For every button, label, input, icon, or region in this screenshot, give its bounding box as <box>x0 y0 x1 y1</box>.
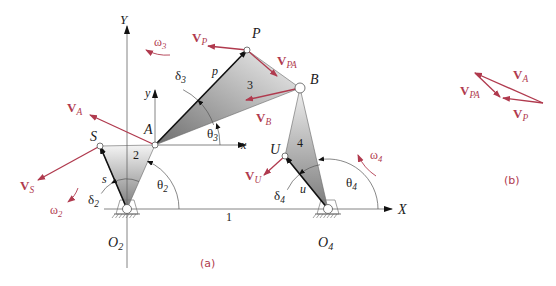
velocity-label-B: VB <box>256 110 271 127</box>
delta4-arc-ext <box>287 174 299 190</box>
link-2 <box>100 145 155 209</box>
velocity-label-A: VA <box>67 100 82 117</box>
delta3-arc-ext <box>183 90 198 101</box>
angle-label-θ3: θ3 <box>207 126 218 143</box>
link-label-2: 2 <box>133 148 139 162</box>
joint-O2 <box>123 205 132 214</box>
position-vector-label-u: u <box>300 182 306 196</box>
joint-O4 <box>324 205 333 214</box>
point-label-B: B <box>310 72 319 87</box>
velocity-polygon-b: VAVPAVP <box>460 67 543 123</box>
point-label-P: P <box>251 26 261 41</box>
velocity-label-P: VP <box>192 30 207 47</box>
omega-label-2: ω2 <box>50 203 63 219</box>
caption-b: (b) <box>504 174 520 187</box>
axis-label-X: X <box>397 202 407 217</box>
position-vector-label-p: p <box>211 64 218 78</box>
velocity-label-U: VU <box>245 168 262 185</box>
point-label-A: A <box>143 122 153 137</box>
omega2-arrow <box>68 188 78 202</box>
angle-label-θ4: θ4 <box>346 175 357 192</box>
axis-label-y: y <box>144 86 151 100</box>
caption-a: (a) <box>200 257 215 270</box>
joint-S <box>97 143 103 149</box>
labels: O2ASPBUO4XYxy1234spuδ2θ2δ3θ3δ4θ4VPVPAVAV… <box>20 12 407 252</box>
joint-U <box>282 153 288 159</box>
polygon-label-PA: VPA <box>460 83 480 100</box>
point-label-S: S <box>90 129 97 144</box>
link-label-3: 3 <box>247 78 253 92</box>
joint-A <box>152 142 158 148</box>
angle-label-δ3: δ3 <box>175 68 186 85</box>
angle-label-δ2: δ2 <box>88 192 99 209</box>
ground-link-label: 1 <box>226 210 232 224</box>
captions: (a)(b) <box>200 174 520 270</box>
point-label-U: U <box>270 142 281 157</box>
omega3-arrow <box>146 50 170 55</box>
axis-label-Y: Y <box>120 12 129 27</box>
velocity-vector-P <box>208 46 247 50</box>
point-label-O2: O2 <box>108 235 123 252</box>
velocity-vector-U <box>264 156 285 175</box>
joint-B <box>295 83 305 93</box>
velocity-label-PA: VPA <box>277 53 297 70</box>
link-4 <box>285 88 328 209</box>
position-vector-label-s: s <box>102 172 107 186</box>
point-label-O4: O4 <box>318 235 333 252</box>
velocity-label-S: VS <box>20 178 34 195</box>
velocity-vector-S <box>38 146 100 180</box>
axis-label-x: x <box>240 138 247 152</box>
omega-label-3: ω3 <box>154 35 167 51</box>
fourbar-linkage-figure: O2ASPBUO4XYxy1234spuδ2θ2δ3θ3δ4θ4VPVPAVAV… <box>0 0 556 286</box>
omega-label-4: ω4 <box>370 148 383 164</box>
polygon-label-P: VP <box>513 106 528 123</box>
link-label-4: 4 <box>297 136 303 150</box>
angle-label-δ4: δ4 <box>274 188 285 205</box>
joint-P <box>244 47 250 53</box>
angle-label-θ2: θ2 <box>157 177 168 194</box>
polygon-label-A: VA <box>513 67 528 84</box>
